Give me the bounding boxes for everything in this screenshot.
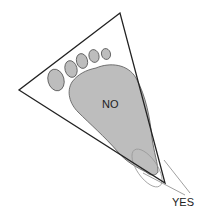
- toe-5-icon: [100, 48, 112, 61]
- label-yes: YES: [172, 196, 194, 208]
- diagram-canvas: NO YES: [0, 0, 202, 222]
- label-no: NO: [102, 98, 119, 110]
- yes-leader-line-2: [164, 160, 190, 193]
- foot-diagram: NO YES: [0, 0, 202, 222]
- foot-sole-shape: [69, 65, 158, 175]
- toe-big-icon: [45, 67, 66, 92]
- toe-4-icon: [87, 48, 100, 63]
